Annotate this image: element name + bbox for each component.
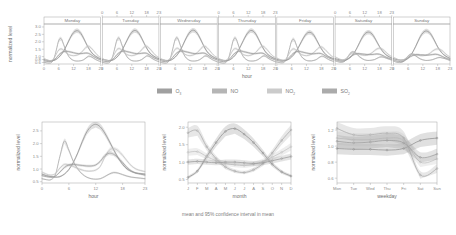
top-xtick: 0 (334, 66, 337, 71)
day-panel-thursday: Thursday0066121218182323 (217, 10, 278, 72)
weekday-panel-ytick: 1.2 (328, 128, 334, 133)
legend-swatch-O3 (157, 89, 172, 94)
top-xtick-upper: 0 (101, 10, 104, 15)
hour-panel-xtick: 6 (68, 186, 71, 191)
month-panel-ytick: 1.0 (179, 160, 185, 165)
weekday-panel-xtick: Fri (401, 186, 406, 191)
day-panel-sunday: Sunday06121823 (392, 17, 453, 71)
top-xtick-upper: 12 (129, 10, 134, 15)
hour-panel-xtick: 0 (41, 186, 44, 191)
top-xtick: 6 (116, 66, 119, 71)
top-xtick: 0 (101, 66, 104, 71)
top-xtick: 6 (232, 66, 235, 71)
hour-panel-xtick: 23 (143, 186, 148, 191)
top-xtick: 18 (86, 66, 91, 71)
legend-label-NO: NO (231, 88, 239, 94)
top-xtick: 6 (290, 66, 293, 71)
hour-panel-xlabel: hour (88, 193, 98, 199)
top-xtick-upper: 23 (389, 10, 394, 15)
hour-panel-ylabel: normalized level (15, 134, 21, 170)
weekday-panel-ytick: 0.8 (328, 160, 334, 165)
hour-panel-ytick: 0.5 (33, 179, 39, 184)
hour-panel-xtick: 12 (93, 186, 98, 191)
top-panel-xlabel: hour (242, 73, 252, 79)
top-xtick-upper: 23 (273, 10, 278, 15)
top-xtick-upper: 6 (232, 10, 235, 15)
legend-item-O3[interactable]: O3 (157, 88, 182, 95)
top-xtick: 12 (362, 66, 367, 71)
top-xtick-upper: 12 (246, 10, 251, 15)
day-panel-friday: Friday06121823 (276, 17, 337, 71)
panel-strip-label: Monday (65, 18, 81, 23)
top-xtick: 0 (159, 66, 162, 71)
weekday-panel-xtick: Tue (350, 186, 358, 191)
month-panel-xtick: J (234, 186, 236, 191)
month-panel-xtick: D (289, 186, 292, 191)
month-panel-xtick: F (196, 186, 199, 191)
weekday-panel-ytick: 0.6 (328, 176, 334, 181)
top-xtick: 0 (276, 66, 279, 71)
top-xtick: 6 (58, 66, 61, 71)
top-xtick: 18 (435, 66, 440, 71)
legend-item-NO2[interactable]: NO2 (267, 88, 295, 95)
panel-strip-label: Tuesday (122, 18, 139, 23)
top-xtick: 12 (421, 66, 426, 71)
top-xtick: 23 (448, 66, 453, 71)
top-xtick-upper: 6 (349, 10, 352, 15)
top-xtick: 12 (246, 66, 251, 71)
month-panel-xtick: A (215, 186, 218, 191)
month-panel-xtick: N (280, 186, 283, 191)
top-xtick: 0 (43, 66, 46, 71)
top-xtick-upper: 23 (157, 10, 162, 15)
hour-panel-ytick: 1.0 (33, 167, 39, 172)
top-xtick: 18 (202, 66, 207, 71)
day-panel-monday: Monday06121823 (43, 17, 104, 71)
top-xtick: 12 (188, 66, 193, 71)
legend-item-SO2[interactable]: SO2 (322, 88, 350, 95)
top-xtick: 18 (261, 66, 266, 71)
top-ytick: 3.0 (35, 24, 41, 29)
top-ytick: 2.5 (35, 32, 41, 37)
month-panel-xtick: O (271, 186, 275, 191)
legend: O3NONO2SO2 (157, 88, 350, 95)
top-xtick: 18 (144, 66, 149, 71)
top-xtick: 12 (304, 66, 309, 71)
legend-swatch-SO2 (322, 89, 337, 94)
month-panel-xtick: A (252, 186, 255, 191)
top-xtick: 12 (71, 66, 76, 71)
hour-panel-ytick: 1.5 (33, 154, 39, 159)
top-xtick: 0 (392, 66, 395, 71)
weekday-panel-ylabel: normalized level (310, 134, 316, 170)
hour-panel-ytick: 2.5 (33, 128, 39, 133)
top-xtick-upper: 6 (116, 10, 119, 15)
top-xtick: 18 (319, 66, 324, 71)
figure-caption: mean and 95% confidence interval in mean (182, 212, 274, 217)
weekday-panel-ytick: 1.0 (328, 144, 334, 149)
figure-canvas: normalized level3.02.52.01.51.00.80.6Mon… (0, 0, 456, 235)
month-panel-ytick: 1.5 (179, 142, 185, 147)
weekday-panel: normalized level1.21.00.80.6MonTueWedThu… (310, 122, 441, 199)
month-panel-ytick: 2.0 (179, 125, 185, 130)
top-xtick-upper: 12 (362, 10, 367, 15)
top-xtick-upper: 18 (377, 10, 382, 15)
day-panel-saturday: Saturday0066121218182323 (334, 10, 395, 72)
month-panel-xlabel: month (233, 193, 247, 199)
hour-panel-ytick: 2.0 (33, 141, 39, 146)
top-xtick-upper: 18 (261, 10, 266, 15)
panel-strip-label: Saturday (355, 18, 373, 23)
weekday-panel-xtick: Sun (433, 186, 441, 191)
legend-label-SO2: SO2 (341, 88, 351, 95)
hour-panel: normalized level2.52.01.51.00.506121823h… (15, 122, 148, 199)
legend-label-O3: O3 (176, 88, 182, 95)
month-panel-xtick: M (205, 186, 209, 191)
panel-strip-label: Sunday (414, 18, 430, 23)
top-xtick-upper: 0 (217, 10, 220, 15)
month-panel-ytick: 0.5 (179, 177, 185, 182)
day-hour-panel: normalized level3.02.52.01.51.00.80.6Mon… (7, 10, 453, 79)
legend-item-NO[interactable]: NO (212, 88, 238, 94)
top-xtick: 6 (407, 66, 410, 71)
panel-strip-label: Wednesday (177, 18, 201, 23)
top-panel-ylabel: normalized level (7, 26, 13, 62)
weekday-panel-xtick: Thu (383, 186, 391, 191)
panel-strip-label: Friday (299, 18, 312, 23)
